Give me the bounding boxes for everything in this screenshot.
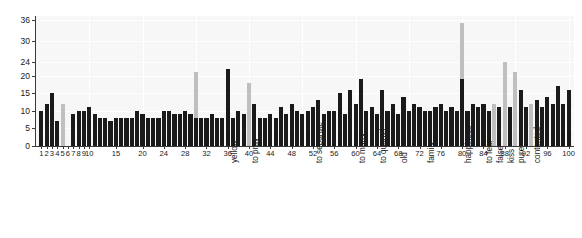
bar [417, 107, 421, 146]
bar [407, 111, 411, 146]
bar [343, 114, 347, 146]
bar-chart: 05101520243036 1234567891015202428323640… [0, 0, 582, 238]
y-axis-tick-label: 20 [21, 72, 30, 81]
bar [529, 104, 533, 146]
bar [231, 118, 235, 146]
bar [444, 111, 448, 146]
bar [220, 118, 224, 146]
bar [476, 107, 480, 146]
bar [103, 118, 107, 146]
bar [327, 111, 331, 146]
bar [135, 111, 139, 146]
bar [77, 111, 81, 146]
x-axis-tick-label: 72 [415, 150, 423, 158]
x-axis-tick-label: 7 [71, 150, 75, 158]
bar [87, 107, 91, 146]
bar [401, 97, 405, 146]
y-axis-tick [32, 146, 35, 147]
bar [50, 93, 54, 146]
y-axis-tick [32, 20, 35, 21]
bar [215, 118, 219, 146]
bar [295, 111, 299, 146]
bar [242, 114, 246, 146]
bar [39, 111, 43, 146]
y-axis-tick-label: 10 [21, 107, 30, 116]
bar [226, 69, 230, 146]
bar [178, 114, 182, 146]
bar [455, 111, 459, 146]
bar [194, 118, 198, 146]
x-axis-tick-label: 8 [76, 150, 80, 158]
bar [370, 107, 374, 146]
y-axis-tick-label: 36 [21, 16, 30, 25]
bar [93, 114, 97, 146]
bar [497, 107, 501, 146]
bar [119, 118, 123, 146]
y-axis-tick [32, 62, 35, 63]
bar [199, 118, 203, 146]
x-axis-tick-label: 76 [437, 150, 445, 158]
bar [567, 90, 571, 146]
bar [71, 114, 75, 146]
bar [535, 100, 539, 146]
x-axis-tick-label: 5 [61, 150, 65, 158]
bar [354, 104, 358, 146]
bar [385, 111, 389, 146]
bar [183, 111, 187, 146]
bar [172, 114, 176, 146]
bars-container [36, 16, 574, 146]
bar [290, 104, 294, 146]
x-axis-tick-label: 32 [202, 150, 210, 158]
bar [268, 114, 272, 146]
x-axis-tick-label: 15 [112, 150, 120, 158]
x-axis-tick-label: 56 [330, 150, 338, 158]
bar [258, 118, 262, 146]
bar [284, 114, 288, 146]
bar [55, 121, 59, 146]
bar [188, 114, 192, 146]
bar [460, 79, 464, 146]
x-axis-tick-label: 24 [160, 150, 168, 158]
x-axis-tick-label: 10 [85, 150, 93, 158]
category-word-label: false [497, 146, 505, 163]
bar [524, 107, 528, 146]
bar [61, 104, 65, 146]
x-axis-tick-label: 28 [181, 150, 189, 158]
bar [465, 111, 469, 146]
bar [556, 86, 560, 146]
y-axis-tick-label: 24 [21, 58, 30, 67]
bar [124, 118, 128, 146]
bar [513, 72, 517, 146]
bar [375, 114, 379, 146]
bar [204, 118, 208, 146]
bar [146, 118, 150, 146]
x-axis-tick-label: 20 [138, 150, 146, 158]
y-axis-tick [32, 76, 35, 77]
x-axis-tick-label: 48 [287, 150, 295, 158]
x-axis-tick-label: 100 [562, 150, 575, 158]
bar [428, 111, 432, 146]
bar [503, 62, 507, 146]
bar [481, 104, 485, 146]
bar [114, 118, 118, 146]
bar [274, 118, 278, 146]
bar [423, 111, 427, 146]
x-axis-tick-label: 96 [543, 150, 551, 158]
bar [300, 114, 304, 146]
bar [364, 111, 368, 146]
bar [140, 114, 144, 146]
bar [108, 121, 112, 146]
bar [338, 93, 342, 146]
bar [412, 104, 416, 146]
bar [279, 107, 283, 146]
bar [210, 114, 214, 146]
bar [551, 104, 555, 146]
bar [167, 111, 171, 146]
bar [45, 104, 49, 146]
x-axis-tick-label: 4 [55, 150, 59, 158]
bar [156, 118, 160, 146]
bar [162, 111, 166, 146]
bar [492, 104, 496, 146]
bar [545, 97, 549, 146]
x-axis-tick-label: 3 [50, 150, 54, 158]
